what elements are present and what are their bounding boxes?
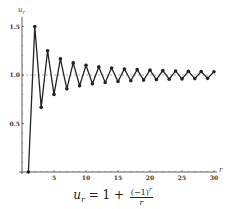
x-tick-label: 30	[210, 174, 218, 181]
data-point	[46, 49, 50, 53]
formula-fraction: (−1)rr	[130, 184, 153, 207]
data-point	[142, 78, 146, 82]
data-point	[187, 69, 191, 73]
y-axis-label: ur	[18, 6, 26, 15]
data-point	[116, 80, 120, 84]
data-point	[59, 57, 63, 61]
data-point	[27, 170, 31, 174]
data-point	[71, 61, 75, 65]
data-point	[148, 68, 152, 72]
data-point	[84, 64, 88, 68]
sequence-chart: 510152025300.51.01.5 ur r	[0, 0, 226, 185]
x-tick-label: 15	[114, 174, 122, 181]
data-point	[39, 106, 43, 110]
data-point	[155, 78, 159, 82]
data-point	[193, 77, 197, 81]
data-point	[103, 81, 107, 85]
data-point	[180, 77, 184, 81]
data-point	[212, 70, 216, 74]
x-axis-label: r	[219, 166, 223, 174]
data-point	[206, 77, 210, 81]
x-tick-label: 5	[52, 174, 56, 181]
data-point	[129, 79, 133, 83]
data-point	[123, 67, 127, 71]
data-point	[97, 65, 101, 69]
data-point	[199, 70, 203, 74]
data-point	[161, 69, 165, 73]
x-tick-label: 25	[178, 174, 186, 181]
data-point	[135, 68, 139, 72]
data-point	[91, 82, 95, 86]
data-series	[27, 25, 216, 174]
data-point	[167, 77, 171, 81]
y-tick-label: 0.5	[10, 120, 20, 127]
x-tick-label: 10	[82, 174, 90, 181]
data-point	[65, 87, 69, 91]
data-point	[110, 66, 114, 70]
data-point	[33, 25, 37, 29]
y-tick-label: 1.0	[10, 71, 20, 78]
formula-caption: ur = 1 + (−1)rr	[0, 184, 226, 207]
data-point	[52, 93, 56, 97]
data-point	[174, 69, 178, 73]
data-point	[78, 84, 82, 88]
y-tick-label: 1.5	[10, 23, 20, 30]
x-tick-label: 20	[146, 174, 154, 181]
